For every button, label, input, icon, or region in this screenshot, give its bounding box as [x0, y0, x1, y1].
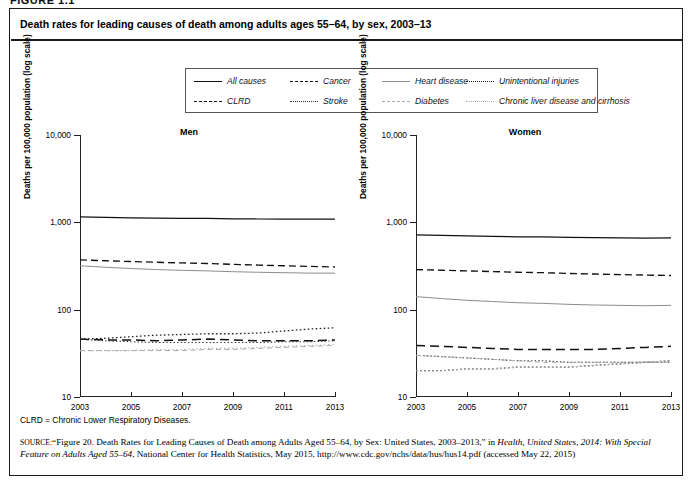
figure-title: Death rates for leading causes of death …: [20, 18, 670, 30]
series-line-unintentional-injuries: [80, 328, 335, 339]
series-line-clrd: [416, 345, 671, 349]
series-layer: [416, 135, 671, 397]
series-line-heart-disease: [80, 266, 335, 273]
legend-item-diabetes: Diabetes: [382, 92, 449, 110]
x-tick-label: 2011: [275, 402, 293, 412]
legend-label: Chronic liver disease and cirrhosis: [499, 96, 630, 106]
legend-item-chronic-liver-disease-and-cirrhosis: Chronic liver disease and cirrhosis: [466, 92, 630, 110]
legend-line-swatch: [382, 76, 410, 86]
legend-item-cancer: Cancer: [290, 72, 351, 90]
legend-line-swatch: [290, 76, 318, 86]
x-tick-label: 2013: [326, 402, 344, 412]
source-note: SOURCE:“Figure 20. Death Rates for Leadi…: [20, 437, 672, 460]
series-line-stroke: [416, 355, 671, 362]
plot-area-men: 101001,00010,000200320052007200920112013: [80, 135, 335, 397]
chart-panel-women: Deaths per 100,000 population (log scale…: [360, 121, 690, 416]
legend-label: Diabetes: [415, 96, 449, 106]
legend-item-all-causes: All causes: [194, 72, 266, 90]
y-tick-label: 10: [398, 392, 407, 402]
legend-line-swatch: [466, 76, 494, 86]
x-tick: [671, 392, 672, 397]
legend-row-2: CLRDStrokeDiabetesChronic liver disease …: [186, 92, 597, 112]
x-tick-label: 2003: [71, 402, 89, 412]
x-tick-label: 2003: [407, 402, 425, 412]
figure-frame: Death rates for leading causes of death …: [9, 8, 683, 476]
legend-item-heart-disease: Heart disease: [382, 72, 468, 90]
legend-label: Heart disease: [415, 76, 468, 86]
series-line-all-causes: [80, 217, 335, 219]
abbreviation-note: CLRD = Chronic Lower Respiratory Disease…: [20, 415, 191, 425]
legend-line-swatch: [466, 96, 494, 106]
legend-item-clrd: CLRD: [194, 92, 250, 110]
series-line-heart-disease: [416, 297, 671, 306]
source-label: SOURCE:: [20, 438, 52, 447]
y-tick-label: 10,000: [46, 130, 71, 140]
series-line-clrd: [80, 339, 335, 341]
y-axis-title-men: Deaths per 100,000 population (log scale…: [22, 39, 32, 199]
chart-panel-men: Deaths per 100,000 population (log scale…: [24, 121, 354, 416]
legend-label: Cancer: [323, 76, 351, 86]
source-text-1: “Figure 20. Death Rates for Leading Caus…: [52, 437, 497, 447]
legend-label: All causes: [227, 76, 266, 86]
y-tick: [410, 397, 416, 398]
y-tick-label: 1,000: [386, 217, 407, 227]
legend-item-stroke: Stroke: [290, 92, 348, 110]
legend-line-swatch: [194, 76, 222, 86]
x-tick-label: 2013: [662, 402, 680, 412]
x-tick-label: 2009: [224, 402, 242, 412]
legend-row-1: All causesCancerHeart diseaseUnintention…: [186, 72, 597, 92]
legend-label: Unintentional injuries: [499, 76, 579, 86]
x-tick-label: 2007: [509, 402, 527, 412]
series-line-cancer: [416, 270, 671, 276]
y-tick-label: 10,000: [382, 130, 407, 140]
legend-line-swatch: [290, 96, 318, 106]
plot-area-women: 101001,00010,000200320052007200920112013: [416, 135, 671, 397]
y-tick: [74, 397, 80, 398]
legend-item-unintentional-injuries: Unintentional injuries: [466, 72, 579, 90]
source-text-2: , National Center for Health Statistics,…: [132, 449, 575, 459]
title-divider: [11, 39, 682, 41]
y-tick-label: 1,000: [50, 217, 71, 227]
legend-line-swatch: [382, 96, 410, 106]
legend-line-swatch: [194, 96, 222, 106]
x-tick: [335, 392, 336, 397]
x-tick-label: 2009: [560, 402, 578, 412]
y-axis-title-women: Deaths per 100,000 population (log scale…: [358, 39, 368, 199]
y-tick-label: 10: [62, 392, 71, 402]
y-tick-label: 100: [57, 305, 71, 315]
x-tick-label: 2005: [122, 402, 140, 412]
y-tick-label: 100: [393, 305, 407, 315]
legend-label: Stroke: [323, 96, 348, 106]
series-line-cancer: [80, 260, 335, 267]
series-layer: [80, 135, 335, 397]
x-tick-label: 2005: [458, 402, 476, 412]
legend-label: CLRD: [227, 96, 250, 106]
series-line-diabetes: [416, 355, 671, 362]
chart-legend: All causesCancerHeart diseaseUnintention…: [185, 68, 598, 113]
x-tick-label: 2011: [611, 402, 629, 412]
series-line-all-causes: [416, 235, 671, 238]
x-tick-label: 2007: [173, 402, 191, 412]
figure-number: FIGURE 1.1: [10, 0, 75, 6]
